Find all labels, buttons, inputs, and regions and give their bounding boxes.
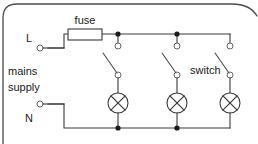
switch-2-upper-contact [174,43,180,49]
junction-neutral-2 [174,125,179,130]
fuse-label: fuse [75,14,96,26]
switch-1-lower-contact [115,72,121,78]
switch-3-upper-contact [227,43,233,49]
switch-3-lower-contact [227,72,233,78]
junction-live-2 [174,31,179,36]
switch-label: switch [190,64,221,76]
switch-1-upper-contact [115,43,121,49]
live-terminal-node [37,45,43,51]
lamp-3-symbol [220,93,240,113]
wire-live-terminal-to-fuse [48,34,68,48]
neutral-terminal-label: N [25,112,33,124]
junction-live-1 [115,31,120,36]
switch-2-lower-contact [174,72,180,78]
fuse-symbol [68,29,102,40]
junction-neutral-1 [115,125,120,130]
lamp-1-symbol [108,93,128,113]
switch-1-blade[interactable] [103,53,117,73]
lamp-2-symbol [167,93,187,113]
wire-neutral-terminal-to-bus [48,104,118,128]
circuit-diagram: fuse L N mains supply [0,0,258,144]
mains-supply-label-line1: mains [8,65,38,77]
circuit-schematic-canvas: fuse L N mains supply [0,0,258,144]
switch-2-blade[interactable] [162,53,176,73]
live-terminal-label: L [26,32,32,44]
neutral-terminal-node [37,101,43,107]
mains-supply-label-line2: supply [8,81,40,93]
